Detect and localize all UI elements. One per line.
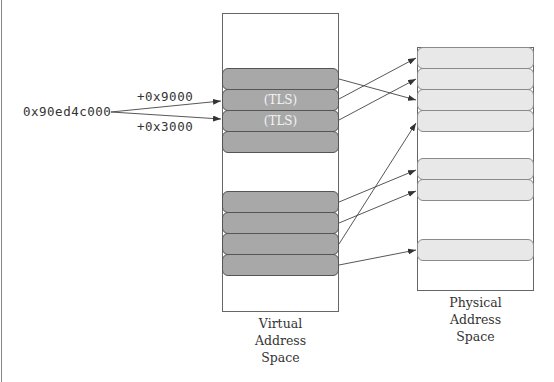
mapping-arrow-v7-p6 xyxy=(339,250,416,265)
virtual-label-line-1: Virtual xyxy=(222,315,339,332)
base-address-label: 0x90ed4c000 xyxy=(23,104,111,119)
physical-block-1 xyxy=(417,68,534,90)
physical-block-5 xyxy=(417,179,534,201)
virtual-block-1-tls: (TLS) xyxy=(222,89,339,111)
left-border xyxy=(1,0,2,382)
virtual-block-label: (TLS) xyxy=(264,114,298,128)
physical-block-4 xyxy=(417,158,534,180)
virtual-label-line-3: Space xyxy=(222,349,339,366)
virtual-address-space-label: Virtual Address Space xyxy=(222,315,339,366)
mapping-arrow-v2-p1 xyxy=(339,79,416,120)
offset-label-9000: +0x9000 xyxy=(137,89,193,104)
mapping-arrow-v0-p2 xyxy=(339,79,416,100)
offset-arrow-3000 xyxy=(111,112,221,119)
mapping-arrow-v6-p3 xyxy=(339,123,416,244)
mapping-arrow-v4-p4 xyxy=(339,170,416,202)
virtual-block-2-tls: (TLS) xyxy=(222,110,339,132)
virtual-label-line-2: Address xyxy=(222,332,339,349)
virtual-block-3 xyxy=(222,131,339,153)
mapping-arrow-v1-p0 xyxy=(339,58,416,99)
physical-address-space-label: Physical Address Space xyxy=(417,294,534,345)
physical-label-line-2: Address xyxy=(417,311,534,328)
virtual-block-7 xyxy=(222,254,339,276)
physical-label-line-1: Physical xyxy=(417,294,534,311)
physical-block-3 xyxy=(417,110,534,132)
mapping-arrow-v5-p5 xyxy=(339,191,416,223)
virtual-block-5 xyxy=(222,212,339,234)
virtual-block-4 xyxy=(222,191,339,213)
virtual-block-0 xyxy=(222,68,339,90)
virtual-block-label: (TLS) xyxy=(264,93,298,107)
physical-block-6 xyxy=(417,239,534,261)
virtual-block-6 xyxy=(222,233,339,255)
physical-label-line-3: Space xyxy=(417,328,534,345)
physical-block-2 xyxy=(417,89,534,111)
physical-block-0 xyxy=(417,47,534,69)
offset-label-3000: +0x3000 xyxy=(137,119,193,134)
